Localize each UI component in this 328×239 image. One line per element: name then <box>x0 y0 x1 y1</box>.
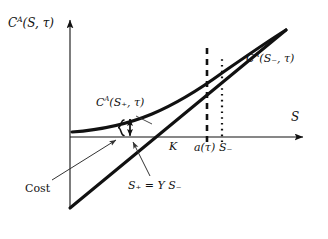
x-tick-label-strike: K <box>169 141 177 152</box>
cost-pointer-arrow <box>52 140 116 180</box>
diagram-vector-layer <box>0 0 328 239</box>
y-axis-label: CA(S, τ) <box>8 16 54 29</box>
call-value-curve-label: CA(S₊, τ) <box>96 96 144 108</box>
x-tick-label-a-tau: a(τ) <box>194 142 215 153</box>
x-tick-label-s-minus: S₋ <box>219 142 232 153</box>
cost-annotation-label: Cost <box>25 183 50 194</box>
s-plus-annotation-label: S₊ = Y S₋ <box>128 180 182 191</box>
exercise-payoff-line-label: CA(S₋, τ) <box>246 52 294 64</box>
x-axis-label: S <box>291 111 299 123</box>
figure-canvas: CA(S, τ) S CA(S₊, τ) CA(S₋, τ) K a(τ) S₋… <box>0 0 328 239</box>
